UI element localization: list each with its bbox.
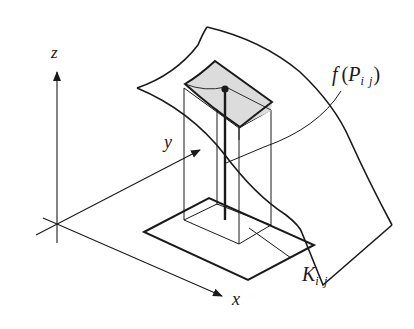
domain-rectangle bbox=[144, 198, 314, 280]
diagram-svg bbox=[0, 0, 414, 329]
f-of-p-label: f(Pi j) bbox=[332, 64, 380, 88]
diagram-canvas: z y x f(Pi j) Ki j bbox=[0, 0, 414, 329]
x-axis-back bbox=[43, 218, 57, 224]
f-var: P bbox=[348, 63, 360, 85]
y-axis bbox=[36, 150, 200, 235]
z-axis-label: z bbox=[51, 44, 58, 61]
f-func: f bbox=[332, 63, 338, 85]
f-close-paren: ) bbox=[373, 63, 380, 85]
x-axis bbox=[57, 224, 222, 296]
x-axis-label: x bbox=[232, 290, 240, 308]
f-sub: i j bbox=[360, 74, 373, 88]
surface-top-edge bbox=[207, 27, 392, 225]
k-var: K bbox=[302, 263, 315, 285]
y-axis-label: y bbox=[164, 133, 172, 151]
k-sub: i j bbox=[315, 274, 328, 288]
axes bbox=[36, 72, 222, 296]
k-ij-label: Ki j bbox=[302, 264, 328, 288]
